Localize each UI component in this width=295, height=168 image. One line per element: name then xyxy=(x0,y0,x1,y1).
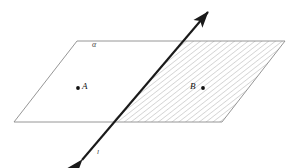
plane-alpha-label: α xyxy=(92,41,96,49)
point-b-label: B xyxy=(190,82,196,91)
line-l-label: l xyxy=(97,149,99,156)
point-a-dot xyxy=(76,86,80,90)
point-a-label: A xyxy=(82,82,88,91)
geometry-figure: α A B l xyxy=(0,0,295,168)
geometry-diagram-canvas xyxy=(0,0,295,168)
point-b-dot xyxy=(201,86,205,90)
